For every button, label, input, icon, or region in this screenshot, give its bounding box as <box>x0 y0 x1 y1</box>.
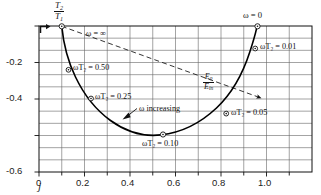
annotation-omega-infinity: ω = ∞ <box>86 30 106 38</box>
annotation-wt2-005: ωT₂ = 0.05 <box>231 109 267 117</box>
annotation-wt2-001: ωT₂ = 0.01 <box>260 43 296 51</box>
x-tick-label-4: 0.8 <box>212 178 225 188</box>
axis-label-j: j <box>38 181 41 192</box>
y-tick-label-2: -0.6 <box>6 166 22 176</box>
x-tick-label-5: 1.0 <box>258 178 271 188</box>
origin-arrow <box>41 24 51 33</box>
y-tick-label-0: -0.2 <box>6 57 22 67</box>
plot-svg <box>0 0 321 195</box>
x-tick-label-1: 0.2 <box>76 178 89 188</box>
annotation-omega-zero: ω = 0 <box>243 11 262 20</box>
x-tick-label-3: 0.6 <box>167 178 180 188</box>
x-tick-label-2: 0.4 <box>121 178 134 188</box>
ratio-denominator: T1 <box>54 12 64 22</box>
plot-canvas <box>0 0 321 195</box>
y-tick-label-1: -0.4 <box>6 93 22 103</box>
annotation-omega-increasing: ω increasing <box>139 105 180 113</box>
response-ratio-label: Eo Ein <box>203 73 214 92</box>
data-point-markers <box>59 24 260 137</box>
response-denominator: Ein <box>203 83 214 92</box>
annotation-wt2-010: ωT₂ = 0.10 <box>142 140 178 148</box>
figure-root: T2 T1 ω = 0 ω = ∞ ωT₂ = 0.01 ωT₂ = 0.50 … <box>0 0 321 195</box>
annotation-wt2-050: ωT₂ = 0.50 <box>73 64 109 72</box>
locus-curve <box>62 26 257 135</box>
ratio-label-t2-t1: T2 T1 <box>54 1 64 22</box>
annotation-wt2-025: ωT₂ = 0.25 <box>95 93 131 101</box>
